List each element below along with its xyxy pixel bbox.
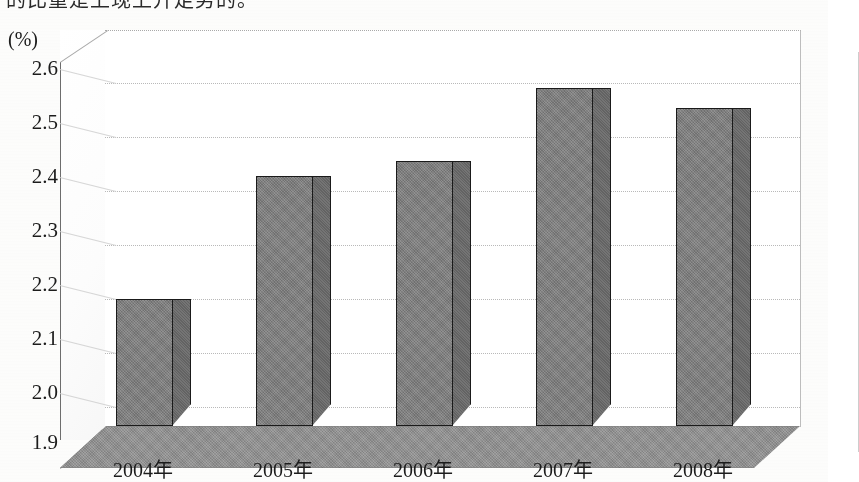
y-tick-1.9: 1.9 (12, 432, 58, 453)
bar-2005-front-face (256, 176, 313, 426)
bar-2008-side-face (732, 108, 751, 426)
bar-2008[interactable] (676, 22, 754, 426)
y-tick-2.6: 2.6 (12, 58, 58, 79)
bar-2006[interactable] (396, 22, 474, 426)
y-axis-line (60, 62, 61, 440)
bar-2007[interactable] (536, 22, 614, 426)
bar-chart: (%) 2.6 2.5 2.4 2.3 2.2 2.1 2.0 1.9 (0, 22, 828, 482)
bar-2005[interactable] (256, 22, 334, 426)
bar-2006-side-face (452, 161, 471, 426)
bar-2007-side-face (592, 88, 611, 426)
bar-2005-side-face (312, 176, 331, 426)
x-tick-2005: 2005年 (228, 454, 338, 482)
page-heading-text: 的比重是上现上升走势的。 (6, 0, 426, 10)
y-tick-2.1: 2.1 (12, 328, 58, 349)
y-axis-labels: 2.6 2.5 2.4 2.3 2.2 2.1 2.0 1.9 (0, 22, 58, 482)
bar-2007-front-face (536, 88, 593, 426)
x-tick-2007: 2007年 (508, 454, 618, 482)
plot-area (58, 22, 828, 482)
x-tick-2004: 2004年 (88, 454, 198, 482)
left-wall-3d (60, 30, 106, 440)
y-tick-2.4: 2.4 (12, 166, 58, 187)
bar-2004-side-face (172, 299, 191, 426)
y-tick-2.0: 2.0 (12, 382, 58, 403)
y-tick-2.5: 2.5 (12, 112, 58, 133)
bar-2004[interactable] (116, 22, 194, 426)
bar-2008-front-face (676, 108, 733, 426)
bar-2006-front-face (396, 161, 453, 426)
y-tick-2.3: 2.3 (12, 220, 58, 241)
bar-2004-front-face (116, 299, 173, 426)
y-tick-2.2: 2.2 (12, 274, 58, 295)
x-axis-labels: 2004年 2005年 2006年 2007年 2008年 (58, 454, 828, 482)
x-tick-2008: 2008年 (648, 454, 758, 482)
x-tick-2006: 2006年 (368, 454, 478, 482)
